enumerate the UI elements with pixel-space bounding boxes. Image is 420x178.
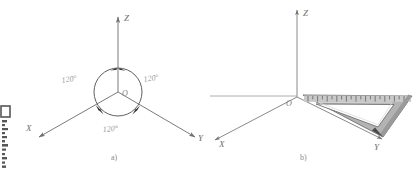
panel-a-origin-label: O <box>122 89 128 98</box>
panel-a-angle-bottom: 120° <box>102 124 119 134</box>
ruler-scale-band <box>304 96 411 102</box>
panel-b-origin-label: O <box>286 99 292 108</box>
panel-a-x-label: X <box>25 123 32 133</box>
panel-b-caption: b) <box>300 153 307 162</box>
panel-a-caption: a) <box>111 153 118 162</box>
figure-background <box>0 0 420 178</box>
technical-drawing-figure: Z X Y O 120° 120° 120° a) <box>0 0 420 178</box>
panel-b-x-label: X <box>218 139 225 149</box>
